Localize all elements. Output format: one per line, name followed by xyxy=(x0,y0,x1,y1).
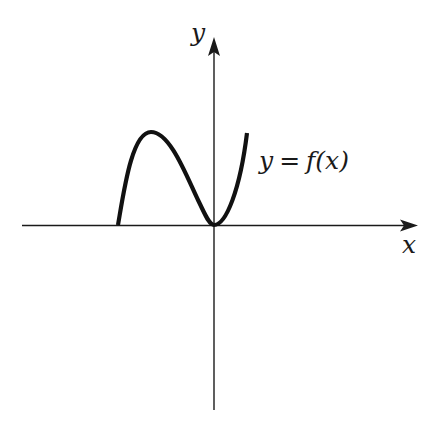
function-graph xyxy=(0,0,444,431)
function-label: y=f(x) xyxy=(259,148,349,173)
y-axis-label: y xyxy=(191,20,205,45)
x-axis-label: x xyxy=(402,232,416,257)
function-label-lhs: y xyxy=(259,146,273,175)
function-label-equals: = xyxy=(273,146,306,175)
function-curve xyxy=(118,132,247,225)
function-label-rhs: f(x) xyxy=(306,146,349,175)
